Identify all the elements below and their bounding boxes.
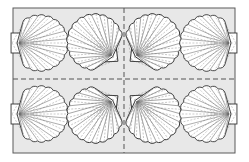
scallop-diagram <box>0 0 249 162</box>
